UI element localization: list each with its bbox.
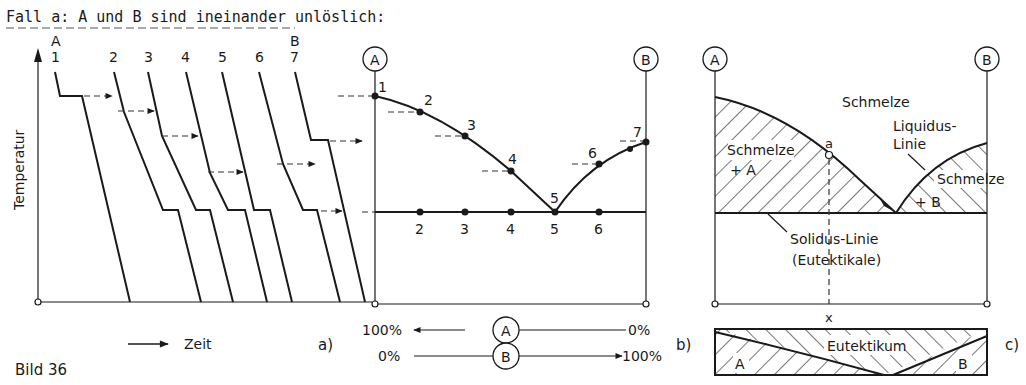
axis-A-circle-label: A	[370, 52, 380, 68]
curve-label: 2	[109, 49, 118, 65]
structure-A-label: A	[735, 356, 745, 372]
liquidus-label-1: Liquidus-	[893, 118, 956, 134]
region-melt-label: Schmelze	[842, 94, 910, 110]
point-a-label: a	[825, 136, 833, 151]
axis-B-circle-label: B	[982, 52, 992, 68]
title: Fall a: A und B sind ineinander unlöslic…	[6, 8, 385, 28]
svg-text:A: A	[501, 323, 511, 339]
cooling-curve-4	[186, 72, 267, 302]
cooling-curve-7	[295, 72, 365, 302]
svg-text:0%: 0%	[628, 322, 650, 338]
liquidus-A-line	[375, 96, 555, 212]
cooling-curve-3	[148, 72, 233, 302]
svg-text:0%: 0%	[378, 348, 400, 364]
liquidus-point-label: 1	[378, 79, 387, 95]
liquidus-label-2: Linie	[893, 136, 926, 152]
microstructure-bar: Eutektikum A B	[715, 329, 987, 375]
liquidus-point-label: 7	[633, 124, 642, 140]
phase-diagram-figure: Fall a: A und B sind ineinander unlöslic…	[0, 0, 1026, 385]
cooling-curve-1	[55, 72, 130, 302]
axis-B-circle-label: B	[641, 52, 651, 68]
eutectic-point-label: 3	[460, 221, 469, 237]
svg-text:100%: 100%	[622, 348, 662, 364]
liquidus-point-label: 5	[550, 190, 559, 206]
svg-text:B: B	[501, 349, 511, 365]
x-marker-label: x	[825, 310, 833, 325]
eutectic-point-label: 2	[415, 221, 424, 237]
eutectic-point-label: 5	[550, 221, 559, 237]
svg-text:100%: 100%	[362, 322, 402, 338]
curve-label: 6	[255, 49, 264, 65]
component-A-label: A	[51, 33, 61, 49]
region-melt-A-label-2: + A	[730, 162, 756, 178]
figure-label: Bild 36	[15, 361, 67, 379]
panel-c-phase-diagram: A B a x Schmelze Liquidus- Linie Schmelz…	[703, 47, 1019, 375]
component-B-label: B	[290, 33, 300, 49]
svg-text:Fall a: A und B sind ineinande: Fall a: A und B sind ineinander unlöslic…	[6, 8, 385, 26]
curve-label: 3	[144, 49, 153, 65]
liquidus-point-label: 4	[508, 151, 517, 167]
panel-c-label: c)	[1005, 336, 1019, 354]
liquidus-point-label: 6	[588, 145, 597, 161]
panel-a-label: a)	[318, 336, 333, 354]
concentration-scale: 100% A 0% 0% B 100%	[362, 317, 662, 369]
eutectic-point-label: 6	[594, 221, 603, 237]
axis-A-circle-label: A	[710, 52, 720, 68]
eutectic-point-label: 4	[506, 221, 515, 237]
curve-label: 1	[51, 49, 60, 65]
solidus-label-2: (Eutektikale)	[792, 252, 881, 268]
cooling-curve-5	[222, 72, 292, 302]
y-axis-arrow-icon	[34, 48, 42, 62]
curve-label: 4	[181, 49, 190, 65]
panel-a-cooling-curves: Temperatur A B 1 2 3 4 5 6 7 Zeit a)	[11, 33, 372, 354]
region-melt-B-label-2: + B	[915, 194, 941, 210]
liquidus-point-label: 3	[467, 117, 476, 133]
panel-b-label: b)	[676, 336, 691, 354]
liquidus-point-label: 2	[424, 92, 433, 108]
structure-B-label: B	[958, 356, 968, 372]
eutectic-label: Eutektikum	[827, 338, 907, 354]
x-axis-label: Zeit	[184, 336, 212, 352]
solidus-label-1: Solidus-Linie	[790, 231, 878, 247]
region-melt-A-label-1: Schmelze	[727, 142, 795, 158]
cooling-curve-6	[259, 72, 340, 302]
panel-b-phase-diagram: A B 1 2 3 4 5	[338, 47, 691, 369]
y-axis-label: Temperatur	[11, 129, 27, 211]
region-melt-B-label-1: Schmelze	[937, 171, 1005, 187]
cooling-curve-2	[114, 72, 201, 302]
curve-label: 7	[290, 49, 299, 65]
liquidus-B-line	[555, 142, 646, 212]
curve-label: 5	[218, 49, 227, 65]
